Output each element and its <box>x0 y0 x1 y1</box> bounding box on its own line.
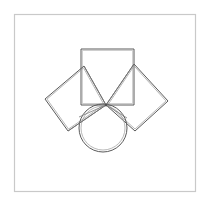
apex-vertex-dot <box>105 104 107 106</box>
figure-canvas: Geometric construction: squares on trian… <box>0 0 210 205</box>
geometry-diagram: Geometric construction: squares on trian… <box>0 0 210 205</box>
